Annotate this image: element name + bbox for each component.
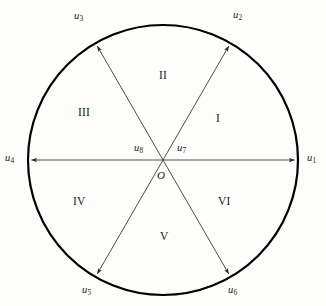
region-label-VI: VI	[218, 196, 231, 208]
region-label-V: V	[160, 231, 169, 243]
vector-label-u5-base: u	[82, 284, 87, 295]
vector-label-u7-subscript: 7	[183, 146, 187, 155]
vector-label-u2: u2	[233, 10, 242, 21]
vector-line-u6	[163, 160, 229, 274]
vector-label-u2-subscript: 2	[239, 13, 243, 22]
vector-label-u6-base: u	[228, 284, 233, 295]
region-label-II: II	[159, 70, 167, 82]
origin-label: O	[157, 170, 165, 181]
vector-line-u5	[97, 160, 163, 274]
vector-label-u4-subscript: 4	[11, 156, 15, 165]
vector-label-u3-base: u	[74, 10, 79, 21]
vector-label-u2-base: u	[233, 9, 238, 20]
vector-label-u4: u4	[5, 153, 14, 164]
vector-label-u6: u6	[228, 285, 237, 296]
figure-canvas: u1 u2 u3 u4 u5 u6 u7 u8 O I II III IV V …	[0, 0, 326, 306]
vector-label-u1: u1	[307, 153, 316, 164]
diagram-svg	[0, 0, 326, 306]
vector-line-u2	[163, 46, 229, 160]
vector-label-u3: u3	[74, 11, 83, 22]
vector-label-u3-subscript: 3	[80, 14, 84, 23]
region-label-III: III	[78, 107, 90, 119]
vector-label-u8-base: u	[134, 142, 139, 153]
region-label-I: I	[216, 113, 220, 125]
vector-line-u3	[97, 46, 163, 160]
vector-label-u7-base: u	[177, 142, 182, 153]
vector-label-u8: u8	[134, 143, 143, 154]
vector-label-u4-base: u	[5, 152, 10, 163]
region-label-IV: IV	[73, 196, 86, 208]
vector-label-u1-base: u	[307, 152, 312, 163]
vector-label-u5-subscript: 5	[88, 288, 92, 297]
vector-label-u6-subscript: 6	[234, 288, 238, 297]
vector-label-u7: u7	[177, 143, 186, 154]
vector-label-u8-subscript: 8	[140, 146, 144, 155]
vector-label-u1-subscript: 1	[313, 156, 317, 165]
vector-label-u5: u5	[82, 285, 91, 296]
